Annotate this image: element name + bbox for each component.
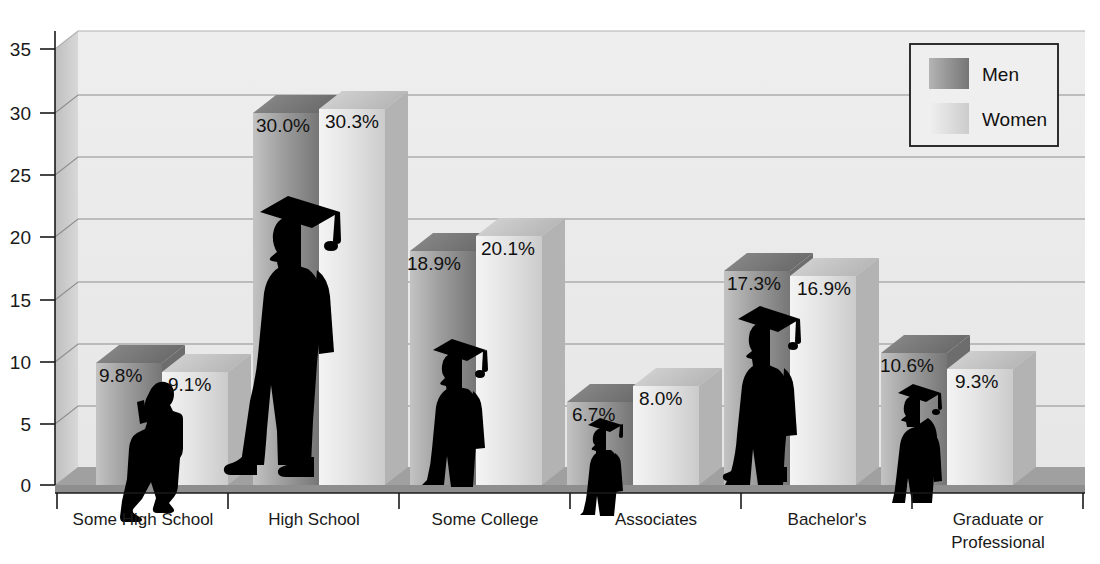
x-category-label-4: Bachelor's: [788, 510, 867, 529]
bar-side: [542, 218, 565, 485]
y-tick-label-35: 35: [10, 39, 31, 60]
value-label-women-4: 8.0%: [639, 388, 682, 409]
bar-group-graduate-professional: 10.6% 9.3%: [880, 335, 1036, 503]
value-label-men-6: 10.6%: [880, 355, 934, 376]
x-category-label-5-line1: Graduate or: [953, 510, 1044, 529]
bar-side: [856, 258, 879, 485]
y-tick-label-25: 25: [10, 165, 31, 186]
legend-label-women: Women: [982, 109, 1047, 130]
x-category-label-1: High School: [268, 510, 360, 529]
value-label-men-1: 9.8%: [99, 365, 142, 386]
bar-side: [699, 368, 722, 485]
y-axis: 0 5 10 15 20 25 30 35: [10, 31, 55, 496]
value-label-women-2: 30.3%: [325, 111, 379, 132]
value-label-women-6: 9.3%: [955, 371, 998, 392]
bar-side: [385, 91, 408, 485]
value-label-men-2: 30.0%: [256, 115, 310, 136]
bar-women-associates[interactable]: [633, 368, 722, 485]
value-label-women-5: 16.9%: [797, 278, 851, 299]
men-swatch: [929, 58, 969, 89]
x-category-label-3: Associates: [615, 510, 697, 529]
x-category-label-5-line2: Professional: [951, 533, 1045, 552]
value-label-men-3: 18.9%: [407, 253, 461, 274]
y-tick-label-30: 30: [10, 103, 31, 124]
y-tick-label-20: 20: [10, 227, 31, 248]
x-category-label-0: Some High School: [73, 510, 214, 529]
value-label-women-1: 9.1%: [168, 374, 211, 395]
bar-women-high-school[interactable]: [319, 91, 408, 485]
y-tick-label-0: 0: [20, 475, 31, 496]
bar-group-bachelors: 17.3% 16.9%: [723, 253, 879, 485]
bar-front: [790, 276, 856, 485]
value-label-men-5: 17.3%: [727, 273, 781, 294]
plot-left-side-wall: [55, 31, 78, 485]
bar-group-some-college: 18.9% 20.1%: [407, 218, 565, 487]
y-tick-label-10: 10: [10, 352, 31, 373]
bar-chart-3d: 9.8% 9.1%: [0, 0, 1100, 564]
legend-label-men: Men: [982, 64, 1019, 85]
women-swatch: [929, 103, 969, 134]
y-tick-label-5: 5: [20, 414, 31, 435]
y-tick-label-15: 15: [10, 290, 31, 311]
value-label-women-3: 20.1%: [481, 238, 535, 259]
x-category-label-2: Some College: [432, 510, 539, 529]
value-label-men-4: 6.7%: [572, 404, 615, 425]
chart-container: 9.8% 9.1%: [0, 0, 1100, 564]
bar-side: [1013, 351, 1036, 485]
chart-title-ghost: [0, 0, 1100, 2]
legend: Men Women: [910, 44, 1058, 146]
